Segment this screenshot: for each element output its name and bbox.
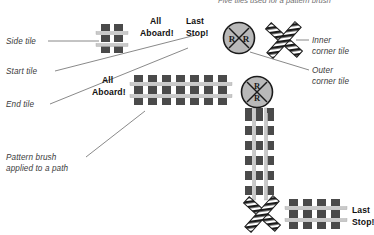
sign-railroad-crossing-top: R R: [224, 23, 255, 54]
illustration-canvas: Five tiles used for a pattern brush Side…: [0, 0, 374, 235]
sign-railroad-crossing-middle: R R: [242, 77, 273, 108]
tile-inner-corner-crossbuck: [254, 10, 313, 69]
track-artwork: R R R R: [0, 0, 374, 235]
track-horizontal-middle: [130, 75, 232, 105]
tile-side: [96, 24, 128, 53]
sign-letter-left: R: [229, 34, 236, 44]
track-vertical: [245, 108, 274, 200]
track-horizontal-bottom: [285, 199, 347, 229]
sign-letter-upper: R: [254, 81, 261, 91]
sign-letter-lower: R: [254, 93, 261, 103]
track-stub-under-sign: [245, 108, 274, 113]
sign-letter-right: R: [243, 34, 250, 44]
